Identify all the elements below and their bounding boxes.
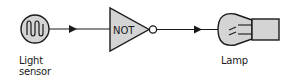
lamp-label: Lamp [221,56,248,66]
arrowhead-icon [194,26,202,34]
light-sensor-label-line1: Light [19,56,43,66]
arrowhead-icon [69,25,77,33]
lamp-icon [218,14,279,46]
not-gate-label: NOT [113,25,135,36]
not-gate-icon: NOT [110,8,157,51]
inverter-bubble-icon [149,26,156,33]
light-sensor-label-line2: sensor [19,67,51,77]
wire-not-to-lamp [157,26,219,34]
wire-sensor-to-not [49,25,110,33]
light-sensor-icon [21,15,49,43]
